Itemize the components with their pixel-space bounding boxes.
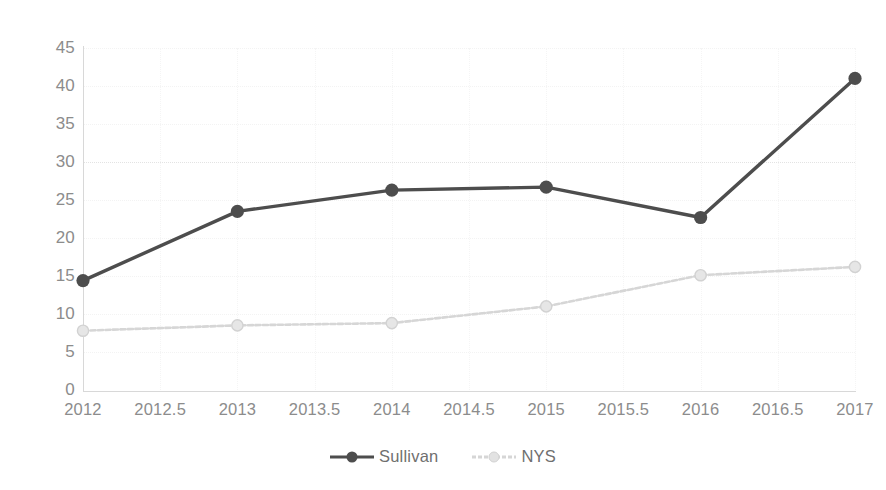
y-axis-tick-45: 45	[29, 38, 75, 58]
y-axis-tick-15: 15	[29, 266, 75, 286]
x-axis-tick-2015: 2015	[527, 400, 565, 419]
y-axis-tick-20: 20	[29, 228, 75, 248]
legend-item-sullivan[interactable]: Sullivan	[330, 447, 438, 466]
x-axis-tick-2013-5: 2013.5	[289, 400, 341, 419]
x-axis-tick-2012-5: 2012.5	[134, 400, 186, 419]
gridline-vertical-2014	[392, 48, 393, 390]
chart-legend: Sullivan NYS	[0, 447, 886, 466]
x-axis-tick-2012: 2012	[64, 400, 102, 419]
gridline-vertical-2013-5	[315, 48, 316, 390]
gridline-vertical-2017	[855, 48, 856, 390]
y-axis-tick-0: 0	[29, 380, 75, 400]
y-axis-tick-35: 35	[29, 114, 75, 134]
legend-label-sullivan: Sullivan	[379, 447, 438, 466]
legend-marker-nys	[472, 450, 516, 464]
y-axis-line	[83, 46, 84, 392]
x-axis-tick-2013: 2013	[219, 400, 257, 419]
legend-label-nys: NYS	[521, 447, 556, 466]
line-chart: 454035302520151050 20122012.520132013.52…	[0, 0, 886, 490]
gridline-vertical-2012-5	[160, 48, 161, 390]
legend-marker-sullivan	[330, 450, 374, 464]
gridline-vertical-2015-5	[623, 48, 624, 390]
x-axis-line	[83, 391, 856, 392]
y-axis-tick-10: 10	[29, 304, 75, 324]
y-axis-tick-25: 25	[29, 190, 75, 210]
y-axis-tick-40: 40	[29, 76, 75, 96]
x-axis-tick-2014-5: 2014.5	[443, 400, 495, 419]
gridline-vertical-2016-5	[778, 48, 779, 390]
plot-area	[83, 48, 855, 390]
x-axis-tick-2015-5: 2015.5	[598, 400, 650, 419]
x-axis-tick-2014: 2014	[373, 400, 411, 419]
x-axis-tick-2016: 2016	[682, 400, 720, 419]
y-axis-tick-5: 5	[29, 342, 75, 362]
gridline-vertical-2014-5	[469, 48, 470, 390]
gridline-vertical-2015	[546, 48, 547, 390]
x-axis-tick-2016-5: 2016.5	[752, 400, 804, 419]
gridline-vertical-2016	[701, 48, 702, 390]
y-axis-tick-30: 30	[29, 152, 75, 172]
legend-item-nys[interactable]: NYS	[472, 447, 556, 466]
gridline-vertical-2013	[237, 48, 238, 390]
x-axis-tick-2017: 2017	[836, 400, 874, 419]
